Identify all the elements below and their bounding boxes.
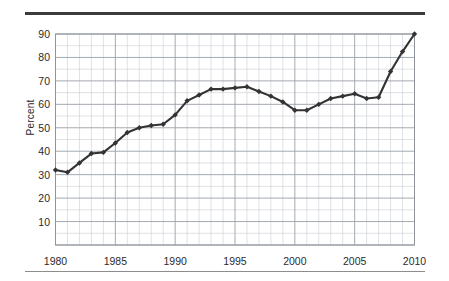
data-point	[256, 89, 261, 94]
y-tick-label: 50	[24, 123, 50, 134]
data-point	[352, 91, 357, 96]
data-point	[220, 86, 225, 91]
y-tick-label: 60	[24, 99, 50, 110]
data-point	[364, 96, 369, 101]
x-tick-label: 1985	[92, 256, 138, 267]
y-tick-label: 80	[24, 52, 50, 63]
y-tick-label: 10	[24, 217, 50, 228]
x-tick-label: 1995	[212, 256, 258, 267]
data-point	[244, 84, 249, 89]
y-tick-label: 30	[24, 170, 50, 181]
data-point	[53, 167, 58, 172]
x-tick-label: 1980	[33, 256, 79, 267]
y-tick-label: 20	[24, 193, 50, 204]
data-point	[340, 93, 345, 98]
data-point	[137, 125, 142, 130]
x-tick-label: 2000	[272, 256, 318, 267]
y-tick-label: 90	[24, 29, 50, 40]
line-chart-plot	[0, 0, 449, 281]
x-tick-label: 1990	[152, 256, 198, 267]
data-point	[232, 85, 237, 90]
chart-figure: Percent 102030405060708090 1980198519901…	[0, 0, 449, 281]
data-point	[149, 123, 154, 128]
x-tick-label: 2010	[392, 256, 438, 267]
y-tick-label: 40	[24, 146, 50, 157]
y-tick-label: 70	[24, 76, 50, 87]
x-tick-label: 2005	[332, 256, 378, 267]
